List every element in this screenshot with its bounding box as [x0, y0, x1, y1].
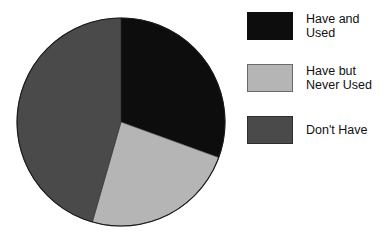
chart-legend: Have and Used Have but Never Used Don't …	[247, 12, 387, 144]
pie-slices	[17, 18, 225, 226]
legend-swatch-dont-have	[247, 116, 293, 144]
pie-chart-figure: Have and Used Have but Never Used Don't …	[0, 0, 390, 240]
legend-label-have-but-never-used: Have but Never Used	[306, 64, 372, 92]
legend-label-dont-have: Don't Have	[306, 116, 367, 137]
legend-label-have-and-used: Have and Used	[306, 12, 360, 40]
legend-item-dont-have[interactable]: Don't Have	[247, 116, 387, 144]
legend-item-have-and-used[interactable]: Have and Used	[247, 12, 387, 40]
legend-swatch-have-and-used	[247, 12, 293, 40]
pie-chart-graphic	[16, 17, 226, 227]
legend-item-have-but-never-used[interactable]: Have but Never Used	[247, 64, 387, 92]
legend-swatch-have-but-never-used	[247, 64, 293, 92]
